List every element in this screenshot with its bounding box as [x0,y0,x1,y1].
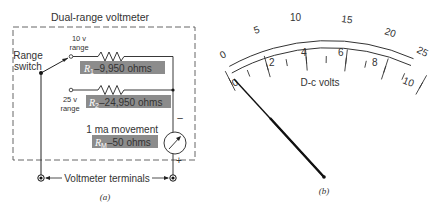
needle-pivot [322,175,326,179]
scale-title: D-c volts [301,77,340,88]
range-switch-label-1: Range [13,50,43,61]
panel-b-meter-scale: 0 5 10 15 20 25 0 2 4 6 8 10 D-c volts (… [218,12,431,196]
inner-label-6: 6 [338,47,344,58]
inner-label-10: 10 [401,75,416,90]
resistor-r2-icon [98,86,124,95]
outer-label-15: 15 [341,13,354,26]
outer-label-20: 20 [383,25,397,39]
r1-label: R1–9,950 ohms [83,63,152,75]
outer-label-25: 25 [415,44,430,59]
outer-label-0: 0 [218,48,228,61]
caption-a: (a) [100,192,111,202]
range-switch-label-2: switch [14,61,42,72]
outer-label-10: 10 [290,12,302,23]
arrow-right-icon [164,176,169,180]
contact-10v [69,55,73,59]
scale-inner-arc [232,48,411,73]
range-10v-label-2: range [69,43,88,52]
contact-25v [69,88,73,92]
voltmeter-figure: Dual-range voltmeter Range switch 10 v r… [0,0,439,211]
range-25v-label-1: 25 v [63,95,77,104]
movement-label: 1 ma movement [86,124,158,135]
r2-label: R2–24,950 ohms [88,97,162,109]
range-10v-label-1: 10 v [72,34,86,43]
inner-label-4: 4 [301,47,307,58]
terminals-label: Voltmeter terminals [64,173,150,184]
caption-b: (b) [319,186,330,196]
scale-outer-arc [229,41,413,67]
arrow-left-icon [45,176,50,180]
range-25v-label-2: range [60,104,79,113]
meter-minus-sign: – [177,112,183,123]
outer-label-5: 5 [252,24,261,36]
inner-label-0: 0 [230,76,240,89]
meter-plus-sign: + [176,155,182,166]
panel-a-title: Dual-range voltmeter [51,11,150,23]
resistor-r1-icon [98,52,124,61]
panel-a-circuit: Dual-range voltmeter Range switch 10 v r… [13,11,195,202]
inner-label-2: 2 [269,57,275,68]
inner-label-8: 8 [372,57,378,68]
